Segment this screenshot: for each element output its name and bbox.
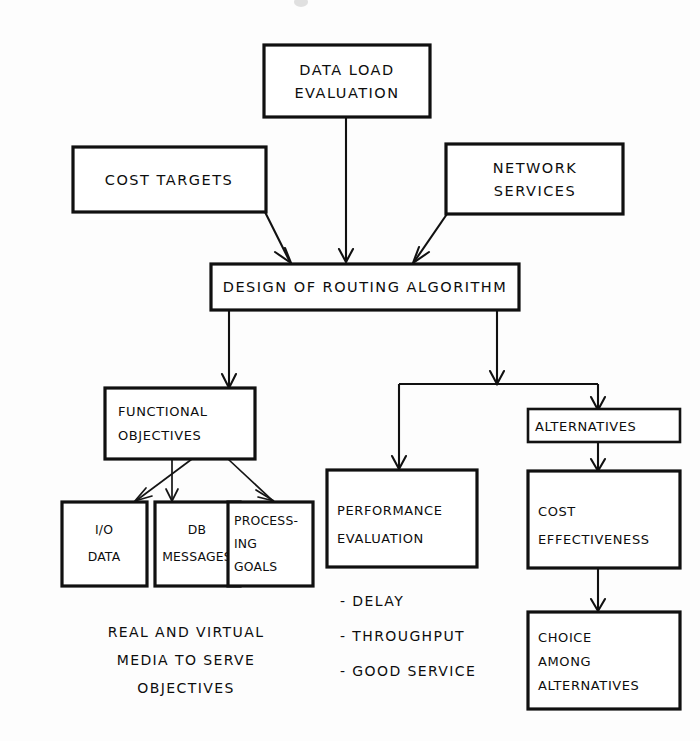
node-label-data-load-evaluation-line1: DATA LOAD — [299, 62, 394, 78]
bullet-list-performance-metrics: - DELAY - THROUGHPUT - GOOD SERVICE — [340, 593, 476, 679]
flowchart-canvas: DATA LOAD EVALUATION COST TARGETS NETWOR… — [0, 0, 700, 741]
node-choice-among-alternatives: CHOICE AMONG ALTERNATIVES — [528, 612, 680, 709]
connector-functional-to-iodata — [135, 459, 192, 501]
connector-design-to-functional — [222, 310, 236, 388]
connector-networkservices-to-design — [413, 214, 447, 263]
node-label-functional-objectives-line1: FUNCTIONAL — [118, 404, 208, 419]
connector-costtargets-to-design — [265, 212, 291, 263]
caption-media-note-line2: MEDIA TO SERVE — [117, 652, 256, 668]
node-label-cost-effectiveness-line2: EFFECTIVENESS — [538, 532, 650, 547]
connector-dataload-to-design — [339, 117, 353, 262]
node-label-functional-objectives-line2: OBJECTIVES — [118, 428, 201, 443]
node-label-performance-evaluation-line2: EVALUATION — [337, 531, 424, 546]
node-functional-objectives: FUNCTIONAL OBJECTIVES — [105, 388, 255, 459]
node-label-choice-among-alternatives-line2: AMONG — [538, 654, 591, 669]
node-alternatives: ALTERNATIVES — [528, 409, 680, 442]
connector-functional-to-dbmessages — [166, 459, 178, 501]
node-label-cost-effectiveness-line1: COST — [538, 504, 576, 519]
node-label-performance-evaluation-line1: PERFORMANCE — [337, 503, 443, 518]
node-label-io-data-line1: I/O — [95, 522, 113, 537]
node-label-processing-goals-line2: ING — [234, 536, 257, 551]
scan-artifact — [294, 0, 308, 7]
node-data-load-evaluation: DATA LOAD EVALUATION — [264, 45, 430, 117]
caption-media-note-line1: REAL AND VIRTUAL — [108, 624, 265, 640]
node-label-design-of-routing-algorithm: DESIGN OF ROUTING ALGORITHM — [223, 279, 508, 295]
bullet-item-delay: - DELAY — [340, 593, 404, 609]
bullet-item-throughput: - THROUGHPUT — [340, 628, 465, 644]
connector-functional-to-processing — [228, 459, 274, 501]
node-label-data-load-evaluation-line2: EVALUATION — [294, 85, 399, 101]
bullet-item-good-service: - GOOD SERVICE — [340, 663, 476, 679]
node-label-io-data-line2: DATA — [88, 549, 121, 564]
caption-media-note: REAL AND VIRTUAL MEDIA TO SERVE OBJECTIV… — [108, 624, 265, 696]
caption-media-note-line3: OBJECTIVES — [137, 680, 234, 696]
node-label-db-messages-line1: DB — [188, 522, 206, 537]
connector-alternatives-to-costeffectiveness — [591, 441, 605, 471]
node-network-services: NETWORK SERVICES — [446, 144, 623, 214]
node-label-db-messages-line2: MESSAGES — [162, 549, 232, 564]
node-label-choice-among-alternatives-line1: CHOICE — [538, 630, 592, 645]
node-label-alternatives: ALTERNATIVES — [535, 419, 636, 434]
node-processing-goals: PROCESS- ING GOALS — [228, 502, 313, 586]
node-cost-effectiveness: COST EFFECTIVENESS — [528, 471, 680, 568]
node-design-of-routing-algorithm: DESIGN OF ROUTING ALGORITHM — [211, 264, 519, 310]
node-label-choice-among-alternatives-line3: ALTERNATIVES — [538, 678, 639, 693]
node-label-processing-goals-line3: GOALS — [234, 559, 277, 574]
node-label-processing-goals-line1: PROCESS- — [234, 513, 298, 528]
node-label-network-services-line2: SERVICES — [494, 183, 576, 199]
flowchart-diagram: DATA LOAD EVALUATION COST TARGETS NETWOR… — [0, 0, 700, 741]
node-label-network-services-line1: NETWORK — [493, 160, 578, 176]
connector-costeffectiveness-to-choice — [591, 568, 605, 611]
node-cost-targets: COST TARGETS — [73, 147, 266, 212]
node-performance-evaluation: PERFORMANCE EVALUATION — [327, 470, 477, 567]
node-io-data: I/O DATA — [62, 502, 147, 586]
connector-design-to-bus — [490, 310, 504, 384]
node-label-cost-targets: COST TARGETS — [105, 172, 233, 188]
